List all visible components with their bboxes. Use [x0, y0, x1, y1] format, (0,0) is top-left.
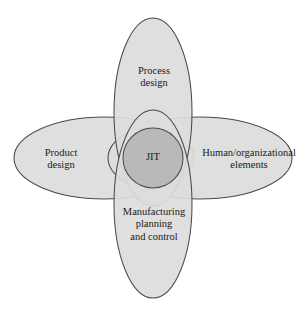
venn-shapes-canvas: [0, 0, 306, 318]
venn-diagram: Process design Product design Human/orga…: [0, 0, 306, 318]
center-circle-jit[interactable]: [123, 128, 183, 188]
